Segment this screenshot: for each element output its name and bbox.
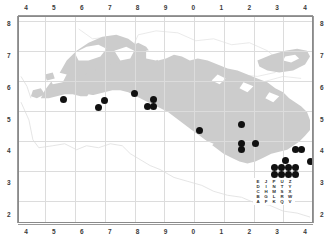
axis-tick-label: 9 (164, 229, 168, 236)
occurrence-dot (285, 164, 292, 171)
gridline-vertical (135, 17, 136, 222)
axis-tick-label: 1 (219, 5, 223, 12)
axis-tick-label: 9 (164, 5, 168, 12)
axis-tick-label: 2 (7, 212, 11, 219)
gridline-horizontal (19, 21, 312, 22)
axis-tick-label: 7 (108, 229, 112, 236)
right-axis-rule (313, 16, 314, 223)
gridline-vertical (75, 17, 76, 222)
occurrence-dot (196, 127, 203, 134)
occurrence-dot (307, 158, 314, 165)
gridline-vertical (194, 17, 195, 222)
occurrence-dot (298, 146, 305, 153)
axis-tick-label: 4 (24, 5, 28, 12)
axis-tick-label: 6 (80, 229, 84, 236)
axis-tick-label: 8 (320, 21, 324, 28)
axis-tick-label: 6 (80, 5, 84, 12)
occurrence-dot (238, 146, 245, 153)
occurrence-dot (101, 97, 108, 104)
axis-tick-label: 4 (320, 148, 324, 155)
grid-letter-cell: V (286, 199, 294, 204)
grid-letter-row: AFKQV (254, 199, 294, 204)
axis-tick-label: 8 (136, 229, 140, 236)
axis-tick-label: 6 (7, 84, 11, 91)
occurrence-dot (150, 103, 157, 110)
axis-tick-label: 8 (136, 5, 140, 12)
occurrence-dot (238, 121, 245, 128)
occurrence-dot (285, 171, 292, 178)
gridline-horizontal (19, 141, 312, 142)
landmass-polygon (31, 35, 310, 164)
occurrence-dot (131, 90, 138, 97)
axis-tick-label: 2 (320, 212, 324, 219)
axis-tick-label: 7 (108, 5, 112, 12)
occurrence-dot (292, 171, 299, 178)
axis-tick-label: 7 (7, 53, 11, 60)
occurrence-dot (252, 140, 259, 147)
gridline-vertical (224, 17, 225, 222)
axis-tick-label: 0 (192, 229, 196, 236)
axis-tick-label: 5 (52, 229, 56, 236)
occurrence-dot (282, 157, 289, 164)
gridline-horizontal (19, 51, 312, 52)
occurrence-dot (292, 164, 299, 171)
bottom-axis-rule (18, 224, 313, 225)
gridline-vertical (105, 17, 106, 222)
occurrence-dot (95, 104, 102, 111)
axis-tick-label: 4 (303, 229, 307, 236)
axis-tick-label: 1 (219, 229, 223, 236)
grid-letter-cell: K (270, 199, 278, 204)
occurrence-dot (271, 171, 278, 178)
occurrence-dot (60, 96, 67, 103)
axis-tick-label: 5 (7, 116, 11, 123)
gridline-horizontal (19, 111, 312, 112)
axis-tick-label: 3 (7, 180, 11, 187)
axis-tick-label: 6 (320, 84, 324, 91)
grid-letter-table: EJPUZDINTYCHMSXBGLRWAFKQV (254, 179, 294, 204)
axis-tick-label: 5 (52, 5, 56, 12)
occurrence-dot (150, 96, 157, 103)
occurrence-dot (271, 164, 278, 171)
axis-tick-label: 7 (320, 53, 324, 60)
grid-letter-key: EJPUZDINTYCHMSXBGLRWAFKQV (253, 178, 295, 205)
occurrence-dot (278, 164, 285, 171)
axis-tick-label: 5 (320, 116, 324, 123)
grid-letter-cell: F (262, 199, 270, 204)
axis-tick-label: 4 (24, 229, 28, 236)
grid-letter-cell: Q (278, 199, 286, 204)
axis-tick-label: 3 (320, 180, 324, 187)
gridline-vertical (45, 17, 46, 222)
axis-tick-label: 3 (275, 229, 279, 236)
axis-tick-label: 2 (247, 229, 251, 236)
axis-tick-label: 4 (303, 5, 307, 12)
plot-area: EJPUZDINTYCHMSXBGLRWAFKQV (18, 16, 313, 223)
gridline-horizontal (19, 171, 312, 172)
distribution-map-figure: EJPUZDINTYCHMSXBGLRWAFKQV 45678901234 45… (0, 0, 331, 242)
occurrence-dot (278, 171, 285, 178)
axis-tick-label: 0 (192, 5, 196, 12)
axis-tick-label: 3 (275, 5, 279, 12)
gridline-horizontal (19, 81, 312, 82)
grid-letter-cell: A (254, 199, 262, 204)
axis-tick-label: 4 (7, 148, 11, 155)
gridline-vertical (164, 17, 165, 222)
axis-tick-label: 2 (247, 5, 251, 12)
axis-tick-label: 8 (7, 21, 11, 28)
